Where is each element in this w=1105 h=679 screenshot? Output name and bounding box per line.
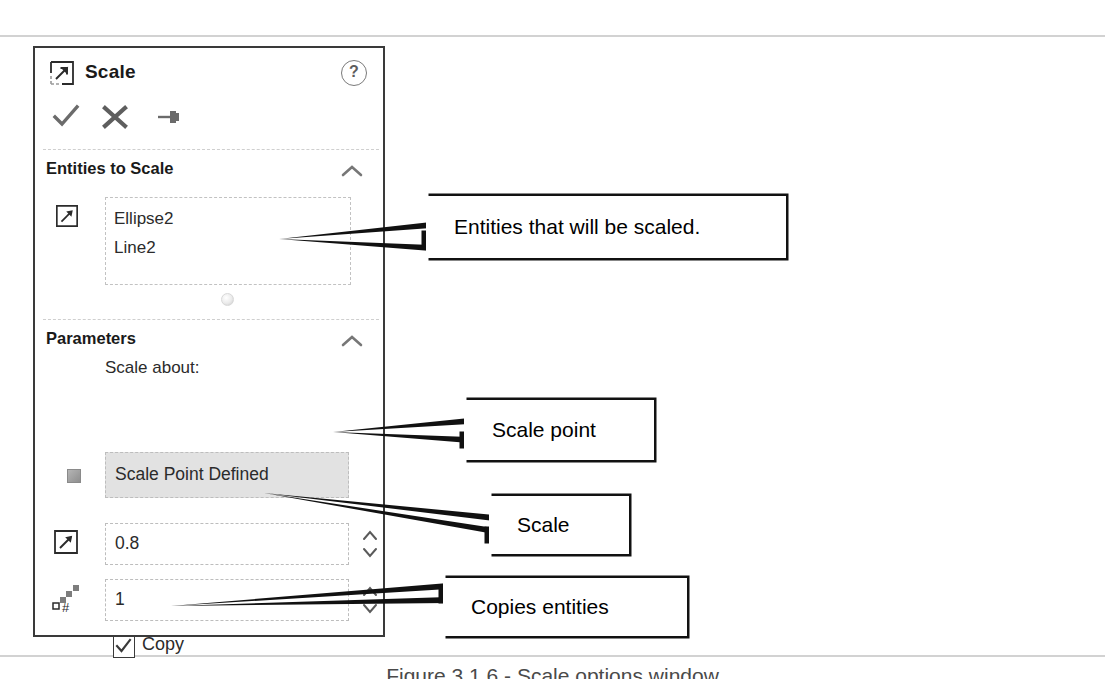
copy-checkbox-label: Copy [142,634,184,655]
resize-grip[interactable] [221,293,234,306]
number-of-copies-stepper[interactable] [360,580,380,620]
cancel-icon[interactable] [101,102,129,136]
page-rule-top [0,35,1105,37]
page-rule-bottom [0,655,1105,657]
svg-text:#: # [62,600,70,614]
callout-entities: Entities that will be scaled. [426,196,786,258]
page-title: Scale [85,61,136,83]
callout-copy-text: Copies entities [471,595,609,619]
scale-factor-input[interactable]: 0.8 [105,523,349,565]
list-item[interactable]: Line2 [114,233,350,262]
figure-caption: Figure 3.1.6 - Scale options window [0,664,1105,679]
callout-scale: Scale [489,496,629,554]
number-of-copies-value: 1 [115,589,125,610]
point-icon [67,469,81,483]
scale-about-value: Scale Point Defined [115,464,269,485]
list-item[interactable]: Ellipse2 [114,204,350,233]
pin-icon[interactable] [153,102,183,136]
callout-scalepoint: Scale point [464,400,654,460]
panel-header: Scale ? [35,48,383,96]
number-of-copies-icon: # [51,584,83,614]
callout-scale-text: Scale [517,513,570,537]
scale-icon [49,60,75,86]
chevron-up-icon[interactable] [341,334,363,348]
entities-listbox[interactable]: Ellipse2 Line2 [105,197,351,285]
scale-about-field[interactable]: Scale Point Defined [105,452,349,498]
callout-copy: Copies entities [443,578,687,636]
panel-toolbar [35,96,383,142]
callout-scalepoint-text: Scale point [492,418,596,442]
scale-entities-icon [55,204,79,228]
scale-factor-stepper[interactable] [360,524,380,564]
ok-icon[interactable] [51,102,81,136]
section-divider-1 [43,149,379,150]
help-icon[interactable]: ? [341,60,367,86]
section-header-entities: Entities to Scale [46,159,173,178]
number-of-copies-input[interactable]: 1 [105,579,349,621]
section-header-parameters: Parameters [46,329,136,348]
section-divider-2 [43,319,379,320]
scale-about-label: Scale about: [105,358,200,378]
copy-checkbox[interactable] [113,636,135,658]
chevron-up-icon[interactable] [341,164,363,178]
scale-factor-icon [53,529,79,555]
scale-property-panel: Scale ? Entities to Scale [33,46,385,637]
callout-entities-text: Entities that will be scaled. [454,215,700,239]
scale-factor-value: 0.8 [115,533,139,554]
